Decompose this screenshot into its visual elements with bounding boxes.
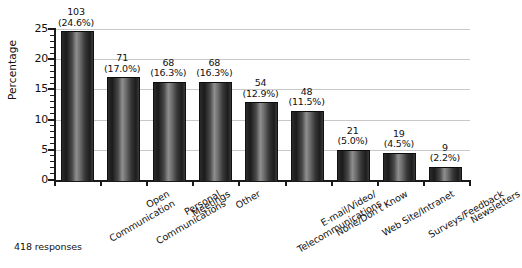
- x-category-label-line: Other: [234, 188, 262, 211]
- bar: [429, 167, 462, 181]
- bar: [291, 111, 324, 181]
- x-tick: [54, 180, 56, 186]
- bar: [383, 153, 416, 181]
- x-category-label: Other: [234, 188, 262, 211]
- bar: [107, 77, 140, 181]
- bar-percent: (2.2%): [415, 153, 475, 164]
- bar-value-label: 48(11.5%): [277, 87, 337, 108]
- responses-annotation: 418 responses: [14, 241, 82, 252]
- gridline: [55, 29, 470, 30]
- bar: [199, 82, 232, 181]
- bar: [61, 31, 94, 181]
- y-axis-title: Percentage: [6, 25, 18, 115]
- y-axis-line: [54, 28, 56, 181]
- x-tick: [423, 180, 425, 186]
- x-tick: [100, 180, 102, 186]
- bar: [153, 82, 186, 181]
- x-tick: [331, 180, 333, 186]
- x-tick: [377, 180, 379, 186]
- bar-value-label: 103(24.6%): [46, 7, 106, 28]
- bar: [337, 150, 370, 181]
- y-tick-label: 0: [26, 174, 48, 185]
- x-tick: [285, 180, 287, 186]
- bar-value-label: 68(16.3%): [184, 58, 244, 79]
- y-tick-label: 25: [26, 23, 48, 34]
- y-tick-label: 10: [26, 114, 48, 125]
- y-tick-label: 20: [26, 53, 48, 64]
- y-tick-label: 15: [26, 83, 48, 94]
- bar: [245, 102, 278, 181]
- x-tick: [238, 180, 240, 186]
- bar-value-label: 9(2.2%): [415, 143, 475, 164]
- x-tick: [192, 180, 194, 186]
- bar-percent: (11.5%): [277, 97, 337, 108]
- y-tick-label: 5: [26, 144, 48, 155]
- x-tick: [146, 180, 148, 186]
- bar-percent: (16.3%): [184, 68, 244, 79]
- x-tick: [469, 180, 471, 186]
- x-category-label: E-mail/Video/Telecommunications: [289, 188, 382, 255]
- bar-percent: (24.6%): [46, 18, 106, 29]
